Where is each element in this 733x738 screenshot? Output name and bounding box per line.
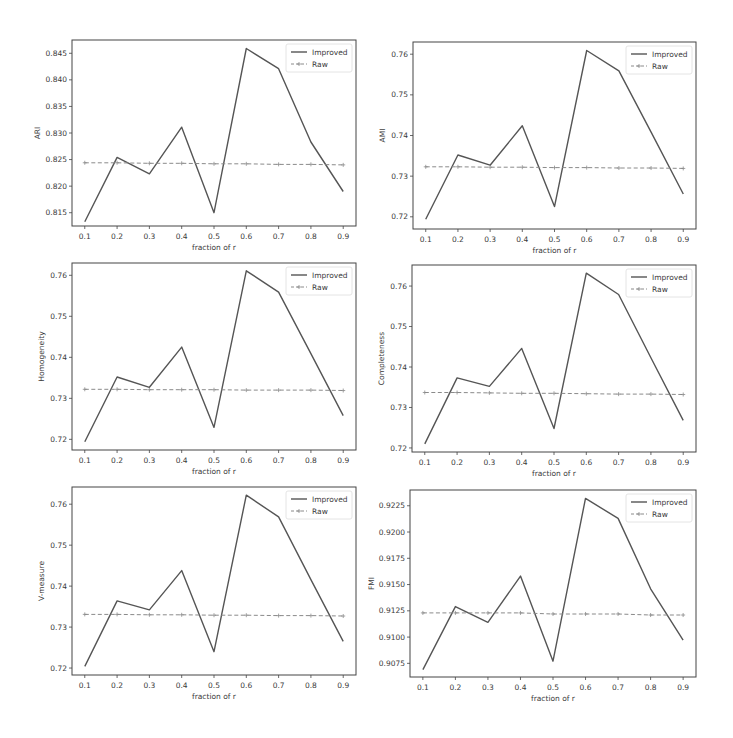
legend-label: Improved — [312, 48, 348, 57]
y-axis-label: Homogeneity — [37, 331, 46, 382]
legend: ImprovedRaw — [626, 46, 692, 74]
x-tick-label: 0.9 — [677, 683, 689, 692]
x-tick-label: 0.2 — [111, 681, 123, 690]
legend: ImprovedRaw — [286, 267, 352, 295]
legend-label: Improved — [312, 271, 348, 280]
y-tick-label: 0.76 — [390, 282, 407, 291]
chart-ami: 0.10.20.30.40.50.60.70.80.9fraction of r… — [378, 42, 696, 255]
x-axis: 0.10.20.30.40.50.60.70.80.9fraction of r — [420, 229, 690, 255]
x-tick-label: 0.3 — [484, 235, 496, 244]
y-axis: 0.720.730.740.750.76V-measure — [37, 500, 72, 673]
x-tick-label: 0.9 — [337, 232, 349, 241]
y-axis-label: AMI — [378, 129, 387, 143]
x-tick-label: 0.6 — [581, 235, 593, 244]
legend-label: Raw — [652, 62, 668, 71]
y-tick-label: 0.845 — [46, 49, 68, 58]
x-tick-label: 0.7 — [613, 458, 625, 467]
y-tick-label: 0.9175 — [379, 554, 405, 563]
x-tick-label: 0.8 — [645, 235, 657, 244]
legend: ImprovedRaw — [286, 44, 352, 72]
x-axis-label: fraction of r — [192, 467, 237, 476]
legend-label: Improved — [312, 495, 348, 504]
y-tick-label: 0.830 — [46, 129, 68, 138]
y-tick-label: 0.76 — [50, 271, 67, 280]
legend-label: Raw — [312, 507, 328, 516]
chart-completeness: 0.10.20.30.40.50.60.70.80.9fraction of r… — [377, 265, 696, 478]
legend-label: Raw — [312, 283, 328, 292]
legend-label: Raw — [312, 60, 328, 69]
x-tick-label: 0.1 — [420, 235, 432, 244]
x-tick-label: 0.5 — [548, 458, 560, 467]
y-tick-label: 0.72 — [50, 664, 67, 673]
y-axis: 0.720.730.740.750.76Completeness — [377, 282, 412, 453]
x-tick-label: 0.6 — [580, 458, 592, 467]
y-axis-label: ARI — [33, 127, 42, 140]
y-tick-label: 0.74 — [50, 353, 67, 362]
x-tick-label: 0.8 — [305, 232, 317, 241]
y-tick-label: 0.72 — [391, 212, 408, 221]
y-tick-label: 0.825 — [46, 155, 68, 164]
legend-label: Improved — [652, 50, 688, 59]
legend-label: Improved — [652, 273, 688, 282]
x-tick-label: 0.6 — [240, 456, 252, 465]
y-tick-label: 0.73 — [391, 172, 408, 181]
y-tick-label: 0.75 — [50, 312, 67, 321]
x-tick-label: 0.7 — [273, 232, 285, 241]
y-axis: 0.720.730.740.750.76Homogeneity — [37, 271, 72, 444]
y-axis: 0.8150.8200.8250.8300.8350.8400.845ARI — [33, 49, 72, 217]
x-tick-label: 0.3 — [483, 458, 495, 467]
x-tick-label: 0.2 — [451, 458, 463, 467]
y-tick-label: 0.74 — [391, 131, 408, 140]
x-tick-label: 0.4 — [516, 235, 528, 244]
x-tick-label: 0.1 — [419, 458, 431, 467]
y-tick-label: 0.75 — [391, 90, 408, 99]
x-axis-label: fraction of r — [192, 692, 237, 701]
x-axis: 0.10.20.30.40.50.60.70.80.9fraction of r — [79, 675, 350, 701]
x-tick-label: 0.1 — [79, 681, 91, 690]
y-tick-label: 0.74 — [50, 582, 67, 591]
x-tick-label: 0.1 — [79, 456, 91, 465]
x-tick-label: 0.2 — [111, 456, 123, 465]
x-tick-label: 0.4 — [176, 232, 188, 241]
x-tick-label: 0.7 — [273, 681, 285, 690]
x-axis: 0.10.20.30.40.50.60.70.80.9fraction of r — [79, 226, 350, 252]
y-axis: 0.720.730.740.750.76AMI — [378, 50, 413, 222]
y-tick-label: 0.75 — [390, 322, 407, 331]
x-tick-label: 0.5 — [549, 235, 561, 244]
x-tick-label: 0.2 — [111, 232, 123, 241]
y-tick-label: 0.74 — [390, 363, 407, 372]
x-tick-label: 0.8 — [645, 458, 657, 467]
x-tick-label: 0.4 — [176, 681, 188, 690]
y-axis-label: Completeness — [377, 332, 386, 385]
y-tick-label: 0.9225 — [379, 501, 405, 510]
y-tick-label: 0.73 — [50, 623, 67, 632]
y-axis-label: V-measure — [37, 561, 46, 601]
x-tick-label: 0.3 — [482, 683, 494, 692]
chart-homogeneity: 0.10.20.30.40.50.60.70.80.9fraction of r… — [37, 263, 356, 476]
y-tick-label: 0.9075 — [379, 659, 405, 668]
x-tick-label: 0.6 — [240, 681, 252, 690]
x-tick-label: 0.9 — [677, 235, 689, 244]
x-tick-label: 0.5 — [547, 683, 559, 692]
legend-label: Raw — [652, 510, 668, 519]
x-tick-label: 0.3 — [143, 456, 155, 465]
y-tick-label: 0.73 — [50, 394, 67, 403]
legend-label: Raw — [652, 285, 668, 294]
y-tick-label: 0.9125 — [379, 606, 405, 615]
y-tick-label: 0.72 — [390, 444, 407, 453]
y-tick-label: 0.835 — [46, 102, 68, 111]
x-tick-label: 0.2 — [452, 235, 464, 244]
chart-fmi: 0.10.20.30.40.50.60.70.80.9fraction of r… — [367, 490, 696, 703]
x-tick-label: 0.3 — [143, 232, 155, 241]
x-axis: 0.10.20.30.40.50.60.70.80.9fraction of r — [419, 452, 690, 478]
x-tick-label: 0.8 — [645, 683, 657, 692]
y-axis-label: FMI — [367, 577, 376, 590]
x-tick-label: 0.9 — [337, 456, 349, 465]
y-tick-label: 0.75 — [50, 541, 67, 550]
x-tick-label: 0.9 — [337, 681, 349, 690]
figure-canvas: 0.10.20.30.40.50.60.70.80.9fraction of r… — [0, 0, 733, 738]
x-tick-label: 0.3 — [143, 681, 155, 690]
legend: ImprovedRaw — [626, 494, 692, 522]
y-tick-label: 0.76 — [50, 500, 67, 509]
x-tick-label: 0.5 — [208, 681, 220, 690]
